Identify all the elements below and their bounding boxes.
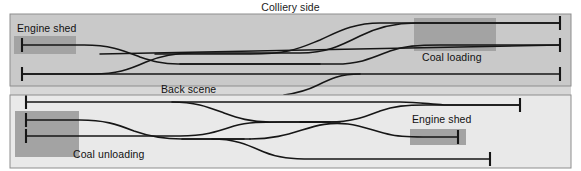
coal-unloading-rect [15, 111, 79, 157]
label-coal-loading: Coal loading [422, 51, 482, 63]
track-plan-canvas [0, 0, 581, 171]
label-coal-unloading: Coal unloading [73, 148, 144, 160]
track-plan-diagram: Colliery side [0, 0, 581, 171]
label-engine-shed-upper: Engine shed [17, 22, 76, 34]
label-engine-shed-lower: Engine shed [412, 113, 471, 125]
label-back-scene: Back scene [161, 83, 216, 95]
